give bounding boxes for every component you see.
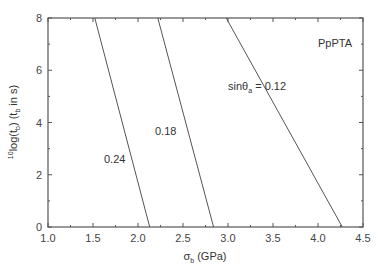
x-tick-label: 4.5 (355, 232, 370, 244)
x-tick-label: 2.5 (175, 232, 190, 244)
y-tick-label: 6 (36, 64, 42, 76)
series-line (158, 18, 214, 227)
y-tick-label: 8 (36, 12, 42, 24)
data-lines (95, 18, 342, 227)
series-label-012: sinθa = 0.12 (228, 80, 286, 94)
x-tick-label: 1.5 (85, 232, 100, 244)
y-tick-label: 0 (36, 221, 42, 233)
x-tick-label: 3.5 (265, 232, 280, 244)
annotation-ppPTA: PpPTA (318, 37, 353, 49)
series-label-018: 0.18 (155, 125, 176, 137)
y-axis-label: 10log(tb) (tb in s) (7, 85, 21, 159)
y-tick-label: 2 (36, 169, 42, 181)
x-tick-label: 4.0 (310, 232, 325, 244)
x-tick-label: 1.0 (40, 232, 55, 244)
x-axis-label: σb (GPa) (183, 250, 226, 264)
series-line (95, 18, 150, 227)
y-tick-label: 4 (36, 117, 42, 129)
chart: 1.01.52.02.53.03.54.04.502468 PpPTA sinθ… (0, 0, 380, 277)
x-tick-label: 2.0 (130, 232, 145, 244)
x-tick-label: 3.0 (220, 232, 235, 244)
series-line (226, 18, 342, 227)
series-label-024: 0.24 (104, 153, 125, 165)
